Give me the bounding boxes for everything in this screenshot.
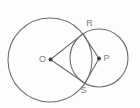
point-dot-O [49,58,53,62]
label-P: P [103,53,109,63]
label-S: S [80,85,86,95]
figure-canvas: OPRS [0,0,140,108]
point-dot-P [97,57,101,61]
geometry-diagram: OPRS [0,0,140,108]
label-O: O [39,54,46,64]
label-R: R [86,18,93,28]
